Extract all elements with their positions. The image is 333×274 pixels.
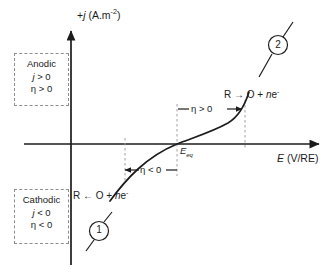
eta-negative-label: η < 0: [140, 165, 161, 176]
y-axis-title: +j (A.m-2): [77, 8, 120, 21]
x-axis-title-variable: E: [277, 152, 284, 164]
x-axis-title-unit: (V/RE): [284, 152, 318, 164]
anodic-region-box: Anodic j > 0 η > 0: [14, 53, 69, 106]
y-axis-title-unit-close: ): [117, 9, 121, 21]
anodic-reaction-equation: R → O + ne-: [224, 88, 279, 101]
anodic-reaction-product: O +: [247, 89, 266, 100]
cathodic-condition-current: j < 0: [20, 207, 63, 218]
cathodic-condition-overpotential-relation: < 0: [36, 219, 52, 230]
callout-1-leader-upper: [104, 212, 112, 222]
equilibrium-potential-subscript: eq: [186, 152, 193, 158]
anodic-condition-overpotential-relation: > 0: [36, 83, 52, 94]
cathodic-reaction-electron-charge: -: [126, 189, 128, 196]
cathodic-reaction-product: R: [73, 190, 80, 201]
anodic-condition-current-relation: > 0: [35, 71, 51, 82]
eta-positive-label: η > 0: [191, 104, 212, 115]
callout-2-leader-lower: [259, 54, 272, 77]
callout-1-label: 1: [91, 224, 107, 235]
callout-2-leader-upper: [283, 22, 293, 37]
anodic-condition-current: j > 0: [20, 71, 63, 82]
polarization-curve-figure: +j (A.m-2) E (V/RE) Eeq Anodic j > 0 η >…: [0, 0, 333, 274]
cathodic-reaction-reactant: O +: [96, 190, 115, 201]
cathodic-condition-overpotential: η < 0: [20, 219, 63, 230]
anodic-region-title: Anodic: [20, 58, 63, 69]
cathodic-condition-current-relation: < 0: [35, 207, 51, 218]
x-axis-title: E (V/RE): [277, 152, 318, 164]
cathodic-reaction-equation: R ← O + ne-: [73, 189, 128, 202]
equilibrium-potential-label: Eeq: [180, 146, 193, 159]
anodic-reaction-reactant: R: [224, 89, 231, 100]
cathodic-region-title: Cathodic: [20, 194, 63, 205]
y-axis-title-unit: (A.m: [85, 9, 110, 21]
callout-2-label: 2: [270, 39, 286, 50]
anodic-condition-overpotential: η > 0: [20, 83, 63, 94]
cathodic-region-box: Cathodic j < 0 η < 0: [14, 189, 69, 244]
anodic-reaction-arrow-icon: →: [234, 89, 244, 100]
anodic-reaction-electron-charge: -: [277, 88, 279, 95]
cathodic-reaction-arrow-icon: ←: [83, 190, 93, 201]
callout-1-leader-lower: [86, 240, 94, 251]
